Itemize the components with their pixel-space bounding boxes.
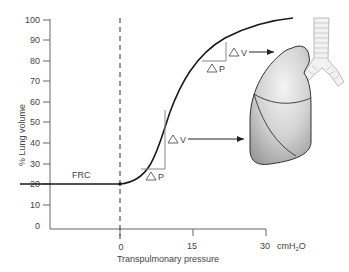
y-tick-30: 30 xyxy=(30,159,40,169)
x-tick-0: 0 xyxy=(118,242,123,252)
svg-text:P: P xyxy=(219,64,225,74)
y-tick-60: 60 xyxy=(30,97,40,107)
svg-text:V: V xyxy=(241,48,247,58)
x-axis: 0 15 30 cmH2O Transpulmonary pressure xyxy=(50,229,306,264)
y-tick-10: 10 xyxy=(30,200,40,210)
y-axis-label: % Lung volume xyxy=(17,104,27,166)
lung-illustration xyxy=(250,46,311,164)
delta-icon xyxy=(168,135,178,143)
delta-icon xyxy=(229,48,239,56)
lower-delta-p: P xyxy=(146,172,164,182)
x-tick-15: 15 xyxy=(187,241,197,251)
y-tick-100: 100 xyxy=(25,15,40,25)
y-tick-80: 80 xyxy=(30,56,40,66)
x-axis-unit: cmH2O xyxy=(277,241,306,252)
svg-text:P: P xyxy=(158,172,164,182)
y-tick-40: 40 xyxy=(30,138,40,148)
frc-label: FRC xyxy=(72,170,91,180)
upper-delta-v: V xyxy=(229,48,247,58)
delta-icon xyxy=(146,172,156,180)
lower-delta-v: V xyxy=(168,135,186,145)
delta-icon xyxy=(207,64,217,72)
y-tick-90: 90 xyxy=(30,35,40,45)
y-axis: 100 90 80 70 60 50 40 30 20 10 0 % Lung … xyxy=(17,15,50,231)
diagram-svg: 100 90 80 70 60 50 40 30 20 10 0 % Lung … xyxy=(0,0,349,272)
svg-text:V: V xyxy=(180,135,186,145)
x-axis-label: Transpulmonary pressure xyxy=(117,254,219,264)
y-tick-50: 50 xyxy=(30,117,40,127)
lower-delta-triangle: V P xyxy=(141,110,244,182)
lung-compliance-diagram: 100 90 80 70 60 50 40 30 20 10 0 % Lung … xyxy=(0,0,349,272)
upper-delta-p: P xyxy=(207,64,225,74)
x-tick-30: 30 xyxy=(260,241,270,251)
frc-point xyxy=(118,182,122,186)
y-tick-0: 0 xyxy=(35,221,40,231)
y-tick-70: 70 xyxy=(30,76,40,86)
